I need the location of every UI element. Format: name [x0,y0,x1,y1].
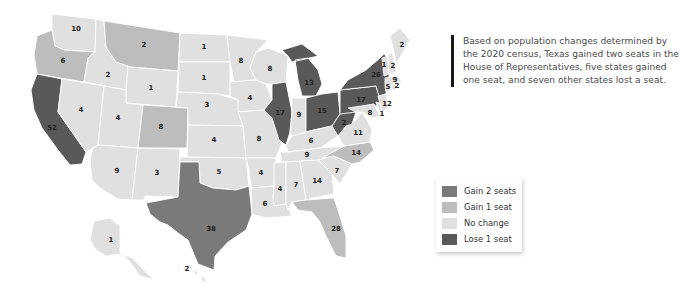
legend-label: Gain 2 seats [464,186,516,196]
seat-count-label: 3 [155,169,160,177]
seat-count-label: 2 [400,41,405,49]
seat-count-label: 28 [331,225,341,233]
seat-count-label: 6 [61,57,66,65]
seat-count-label: 14 [351,149,361,157]
seat-count-label: 26 [371,71,381,79]
seat-count-label: 9 [393,76,398,84]
seat-count-label: 4 [278,185,283,193]
seat-count-label: 2 [106,71,111,79]
legend-item-lose-1: Lose 1 seat [442,231,522,247]
seat-count-label: 2 [342,119,347,127]
state-kansas [187,125,246,158]
caption-text: Based on population changes determined b… [451,35,683,87]
seat-count-label: 9 [115,167,120,175]
seat-count-label: 5 [217,168,222,176]
seat-count-label: 8 [257,135,262,143]
seat-count-label: 4 [259,169,264,177]
seat-count-label: 17 [275,109,285,117]
seat-count-label: 8 [268,65,273,73]
seat-count-label: 1 [149,84,154,92]
legend-item-no-change: No change [442,215,522,231]
seat-count-label: 4 [248,94,253,102]
seat-count-label: 9 [297,111,302,119]
seat-count-label: 8 [368,109,373,117]
seat-count-label: 14 [312,177,322,185]
seat-count-label: 6 [263,200,268,208]
legend-swatch-gain-2 [442,186,457,197]
map-legend: Gain 2 seats Gain 1 seat No change Lose … [436,178,522,252]
seat-count-label: 4 [212,136,217,144]
seat-count-label: 7 [335,167,340,175]
seat-count-label: 8 [159,123,164,131]
seat-count-label: 4 [116,114,121,122]
legend-item-gain-1: Gain 1 seat [442,199,522,215]
seat-count-label: 4 [79,106,84,114]
seat-count-label: 15 [317,107,327,115]
seat-count-label: 38 [206,225,216,233]
seat-count-label: 1 [202,74,207,82]
seat-count-label: 2 [391,62,396,70]
seat-count-label: 1 [380,110,385,118]
state-alaska [90,218,154,280]
seat-count-label: 2 [142,41,147,49]
seat-count-label: 3 [205,101,210,109]
state-washington [52,14,96,52]
seat-count-label: 11 [353,129,363,137]
state-michigan [282,44,322,96]
seat-count-label: 5 [386,83,391,91]
seat-count-label: 9 [305,151,310,159]
legend-item-gain-2: Gain 2 seats [442,183,522,199]
seat-count-label: 2 [185,265,190,273]
seat-count-label: 52 [47,124,57,132]
legend-label: Gain 1 seat [464,202,512,212]
legend-label: No change [464,218,509,228]
seat-count-label: 1 [109,236,114,244]
legend-swatch-gain-1 [442,202,457,213]
legend-swatch-lose-1 [442,234,457,245]
legend-label: Lose 1 seat [464,234,512,244]
legend-swatch-no-change [442,218,457,229]
seat-count-label: 1 [382,61,387,69]
seat-count-label: 1 [202,43,207,51]
seat-count-label: 13 [304,79,314,87]
seat-count-label: 10 [71,25,81,33]
seat-count-label: 17 [356,96,366,104]
seat-count-label: 7 [294,181,299,189]
seat-count-label: 12 [382,100,392,108]
seat-count-label: 6 [309,137,314,145]
seat-count-label: 8 [239,57,244,65]
